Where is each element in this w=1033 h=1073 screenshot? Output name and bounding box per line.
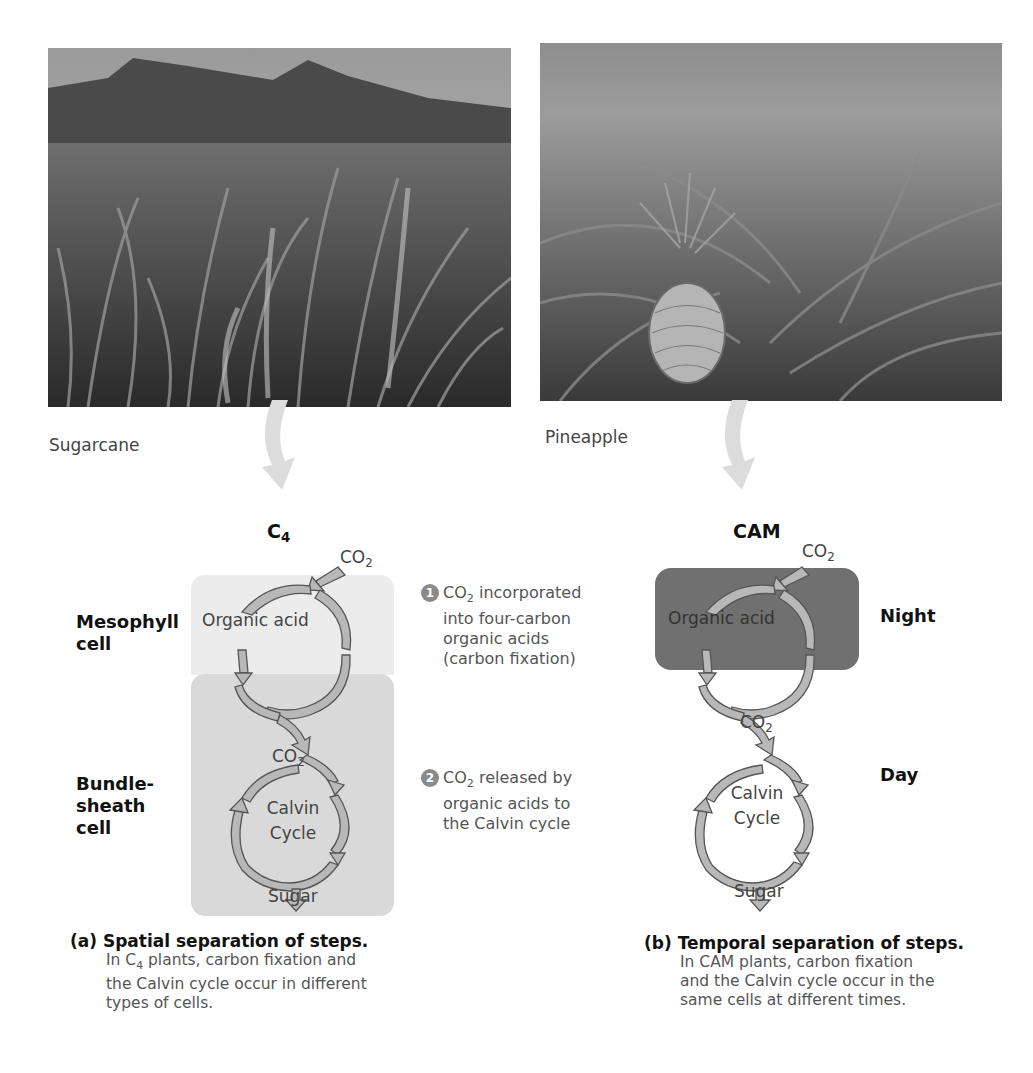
co2-subscript: 2 — [365, 556, 373, 570]
label-line: cell — [76, 633, 179, 655]
footnote-text: plants, carbon fixation and — [143, 951, 356, 969]
c4-co2-in: CO2 — [340, 547, 373, 570]
co2-subscript: 2 — [765, 721, 773, 735]
co2-text: CO — [802, 541, 827, 561]
cycle-line: Cycle — [724, 806, 790, 831]
co2-text: CO — [443, 768, 467, 787]
c4-cycle-diagram — [180, 555, 410, 915]
co2-text: CO — [740, 712, 765, 732]
footnote-line: the Calvin cycle occur in different — [70, 975, 370, 994]
co2-text: CO — [340, 547, 365, 567]
cam-sugar: Sugar — [734, 881, 784, 901]
co2-text: CO — [443, 583, 467, 602]
step-1-badge-icon: 1 — [421, 584, 439, 602]
footnote-a: (a) Spatial separation of steps. In C4 p… — [70, 931, 370, 1013]
footnote-heading: (b) Temporal separation of steps. — [644, 933, 1024, 953]
note-text: incorporated — [474, 583, 581, 602]
cam-organic-acid: Organic acid — [668, 608, 775, 628]
calvin-line: Calvin — [724, 781, 790, 806]
calvin-line: Calvin — [260, 796, 326, 821]
note-text: the Calvin cycle — [421, 814, 572, 834]
footnote-line: In C4 plants, carbon fixation and — [70, 951, 370, 975]
c4-title-text: C — [267, 520, 281, 542]
footnote-line: In CAM plants, carbon fixation — [644, 953, 1024, 972]
night-label: Night — [880, 605, 936, 627]
co2-subscript: 2 — [467, 592, 474, 605]
c4-title-subscript: 4 — [281, 530, 290, 545]
label-line: cell — [76, 817, 154, 839]
note-text: released by — [474, 768, 572, 787]
sugarcane-photo — [48, 48, 511, 407]
cycle-line: Cycle — [260, 821, 326, 846]
cam-calvin-cycle: Calvin Cycle — [724, 781, 790, 831]
footnote-heading: (a) Spatial separation of steps. — [70, 931, 370, 951]
label-line: sheath — [76, 795, 154, 817]
note-text: into four-carbon — [421, 609, 581, 629]
step-1-note: 1CO2 incorporated into four-carbon organ… — [421, 583, 581, 669]
step-2-badge-icon: 2 — [421, 769, 439, 787]
label-line: Mesophyll — [76, 611, 179, 633]
note-text: organic acids — [421, 629, 581, 649]
co2-text: CO — [272, 746, 297, 766]
co2-subscript: 2 — [297, 755, 305, 769]
bundle-sheath-cell-label: Bundle- sheath cell — [76, 773, 154, 839]
footnote-line: and the Calvin cycle occur in the — [644, 972, 1024, 991]
footnote-line: same cells at different times. — [644, 991, 1024, 1010]
c4-sugar: Sugar — [268, 886, 318, 906]
c4-title: C4 — [267, 520, 290, 545]
pineapple-photo — [540, 43, 1002, 401]
mesophyll-cell-label: Mesophyll cell — [76, 611, 179, 655]
c4-calvin-cycle: Calvin Cycle — [260, 796, 326, 846]
pineapple-label: Pineapple — [545, 427, 628, 447]
co2-subscript: 2 — [827, 550, 835, 564]
c4-organic-acid: Organic acid — [202, 610, 309, 630]
footnote-line: types of cells. — [70, 994, 370, 1013]
step-2-note: 2CO2 released by organic acids to the Ca… — [421, 768, 572, 834]
footnote-text: In C — [106, 951, 136, 969]
day-label: Day — [880, 764, 918, 786]
cam-co2-mid: CO2 — [740, 712, 773, 735]
label-line: Bundle- — [76, 773, 154, 795]
sugarcane-label: Sugarcane — [49, 435, 139, 455]
footnote-b: (b) Temporal separation of steps. In CAM… — [644, 933, 1024, 1010]
c4-co2-mid: CO2 — [272, 746, 305, 769]
curved-arrow-cam-icon — [710, 395, 770, 495]
curved-arrow-c4-icon — [250, 395, 310, 495]
co2-subscript: 2 — [467, 777, 474, 790]
cam-title: CAM — [733, 520, 781, 542]
note-text: organic acids to — [421, 794, 572, 814]
note-text: (carbon fixation) — [421, 649, 581, 669]
cam-co2-in: CO2 — [802, 541, 835, 564]
